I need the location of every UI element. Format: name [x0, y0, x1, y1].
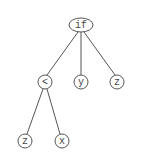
- edge-if-lt: [47, 32, 78, 75]
- edge-lt-z: [27, 89, 43, 134]
- node-if: if: [69, 18, 93, 32]
- node-y-label: y: [78, 77, 84, 88]
- node-less-than: <: [38, 75, 52, 89]
- node-z-left: z: [18, 134, 32, 148]
- node-if-label: if: [75, 20, 87, 31]
- edge-lt-x: [47, 89, 60, 134]
- node-z-right-label: z: [114, 77, 120, 88]
- tree-diagram: if < y z z x: [0, 0, 142, 161]
- edge-if-z: [84, 32, 115, 75]
- node-less-than-label: <: [42, 77, 48, 88]
- node-z-right: z: [110, 75, 124, 89]
- nodes: if < y z z x: [18, 18, 124, 148]
- node-z-left-label: z: [22, 136, 28, 147]
- node-y: y: [74, 75, 88, 89]
- node-x-label: x: [59, 136, 65, 147]
- node-x: x: [55, 134, 69, 148]
